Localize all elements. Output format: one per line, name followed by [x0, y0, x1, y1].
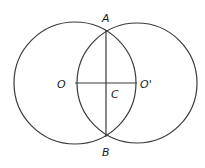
label-b: B [102, 146, 110, 159]
label-c: C [111, 88, 119, 101]
intersecting-circles-diagram: A B O O' C [0, 0, 205, 168]
label-o: O [57, 78, 66, 91]
label-a: A [101, 12, 110, 25]
label-o-prime: O' [140, 78, 152, 91]
